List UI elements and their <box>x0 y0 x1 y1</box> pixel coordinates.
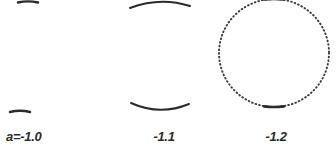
upper-branch-curve <box>18 1 38 2</box>
lower-branch-curve <box>10 111 30 112</box>
panel-c-1p2: -1.2 <box>216 0 336 148</box>
panel-c-plot <box>216 0 336 124</box>
panel-b-1p1: -1.1 <box>112 0 216 148</box>
figure-root: a=-1.0 -1.1 -1.2 <box>0 0 336 148</box>
panel-a-label: a=-1.0 <box>0 129 118 144</box>
panel-c-label: -1.2 <box>216 129 336 144</box>
panel-b-plot <box>112 0 216 124</box>
panel-b-label: -1.1 <box>112 129 216 144</box>
upper-branch-curve <box>130 2 190 8</box>
orbit-cap-bottom <box>264 106 284 107</box>
panel-a-1p0: a=-1.0 <box>0 0 112 148</box>
closed-orbit-dotted <box>219 0 329 107</box>
lower-branch-curve <box>131 103 189 110</box>
panel-a-plot <box>0 0 112 124</box>
